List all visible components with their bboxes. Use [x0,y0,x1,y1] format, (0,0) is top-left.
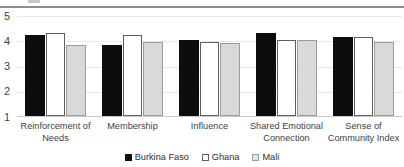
x-axis-category-labels: Reinforcement ofNeedsMembershipInfluence… [17,121,402,149]
x-axis-label: Influence [167,121,252,133]
x-axis-label-line: Influence [167,121,252,133]
x-axis-label-line: Membership [90,121,175,133]
x-axis-label: Reinforcement ofNeeds [13,121,98,144]
y-axis: 54321 [0,10,16,122]
legend-label: Burkina Faso [135,152,189,162]
bar-mali [66,45,86,116]
bar-ghana [123,35,143,116]
y-axis-tick-4: 4 [0,36,14,47]
y-axis-tick-3: 3 [0,61,14,72]
header-rule [0,6,404,8]
chart-legend: Burkina FasoGhanaMali [0,150,404,164]
bar-group [17,9,94,116]
bar-mali [297,40,317,116]
bar-group [248,9,325,116]
legend-label: Ghana [212,152,240,162]
legend-item-burkina-faso[interactable]: Burkina Faso [125,152,189,162]
x-axis-label-line: Connection [244,133,329,145]
legend-swatch-icon [125,154,132,161]
bar-burkina-faso [333,37,353,116]
bar-group [171,9,248,116]
bar-burkina-faso [179,40,199,116]
bar-chart-figure: 54321 Reinforcement ofNeedsMembershipInf… [0,0,404,167]
legend-item-ghana[interactable]: Ghana [202,152,240,162]
x-axis-label-line: Community Index [321,133,404,145]
legend-label: Mali [262,152,279,162]
bar-mali [374,42,394,116]
bar-mali [220,43,240,116]
bar-burkina-faso [256,33,276,116]
bar-group [94,9,171,116]
bar-group [325,9,402,116]
bar-burkina-faso [25,35,45,116]
x-axis-label-line: Reinforcement of [13,121,98,133]
y-axis-tick-2: 2 [0,86,14,97]
bar-ghana [354,37,374,116]
bar-ghana [46,33,66,116]
x-axis-label: Membership [90,121,175,133]
legend-swatch-icon [202,154,209,161]
x-axis-label-line: Needs [13,133,98,145]
y-axis-tick-5: 5 [0,11,14,22]
x-axis-label-line: Sense of [321,121,404,133]
cropped-text-remnant [28,0,40,3]
legend-item-mali[interactable]: Mali [252,152,279,162]
bar-ghana [200,42,220,116]
bar-ghana [277,40,297,116]
plot-area: 54321 [0,10,404,122]
x-axis-label: Shared EmotionalConnection [244,121,329,144]
x-axis-label: Sense ofCommunity Index [321,121,404,144]
bars-layer [17,10,402,117]
bar-burkina-faso [102,45,122,116]
bar-mali [143,42,163,116]
legend-swatch-icon [252,154,259,161]
y-axis-tick-1: 1 [0,112,14,123]
x-axis-label-line: Shared Emotional [244,121,329,133]
